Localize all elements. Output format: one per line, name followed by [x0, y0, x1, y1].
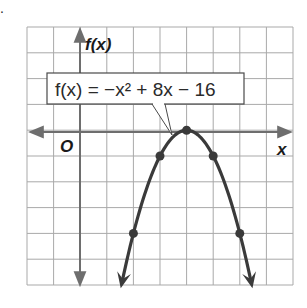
data-point [209, 152, 218, 161]
equation-callout: f(x) = −x² + 8x − 16 [47, 73, 244, 135]
data-point [129, 229, 138, 238]
x-axis-label: x [276, 140, 288, 159]
data-point [182, 126, 191, 135]
problem-marker: . [0, 0, 4, 16]
quadratic-graph: . f(x) x O f(x) = −x² + 8x − 16 [0, 0, 307, 308]
data-point [235, 229, 244, 238]
data-point [156, 152, 165, 161]
equation-label: f(x) = −x² + 8x − 16 [55, 79, 216, 100]
y-axis-label: f(x) [85, 35, 112, 54]
origin-label: O [60, 137, 73, 156]
